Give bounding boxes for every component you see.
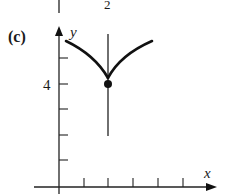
y-tick-label-4: 4 [43, 77, 51, 93]
filled-point-2-4 [104, 80, 112, 88]
panel-label: (c) [8, 28, 26, 46]
y-axis: 4 y [43, 24, 77, 194]
curve-left-branch [66, 41, 108, 78]
x-axis: x [34, 165, 217, 191]
curve-right-branch [108, 41, 152, 78]
top-number-label: 2 [104, 0, 111, 12]
x-axis-arrow-icon [206, 183, 217, 191]
y-axis-label: y [68, 24, 77, 40]
y-axis-arrow-icon [55, 26, 63, 36]
chart-canvas: 2 (c) 4 y x [0, 0, 231, 194]
x-axis-label: x [203, 165, 211, 181]
